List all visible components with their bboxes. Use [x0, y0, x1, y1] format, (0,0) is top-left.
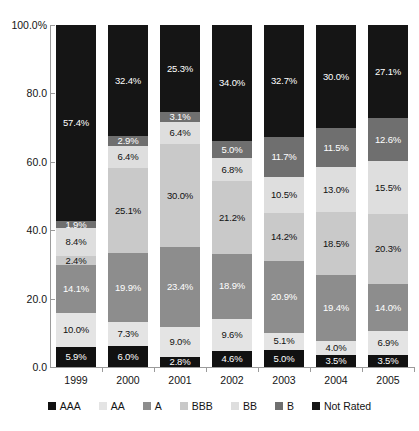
bar-segment: 23.4% — [160, 247, 200, 327]
x-axis-tick-label: 2004 — [308, 374, 364, 386]
bar-segment: 20.9% — [264, 261, 304, 332]
bar-segment: 19.4% — [316, 275, 356, 341]
bar-segment: 20.3% — [368, 214, 408, 283]
x-axis-tick-label: 2005 — [360, 374, 416, 386]
legend-item[interactable]: Not Rated — [312, 400, 371, 412]
bar-segment: 5.0% — [212, 141, 252, 158]
bar-segment: 3.1% — [160, 112, 200, 123]
bar-segment: 8.4% — [56, 228, 96, 257]
bar-segment-value-label: 13.0% — [323, 185, 349, 195]
legend-swatch-icon — [99, 402, 107, 410]
bar-segment-value-label: 2.9% — [118, 136, 139, 146]
bar-segment: 6.4% — [108, 146, 148, 168]
bar-segment: 3.5% — [368, 355, 408, 367]
legend-label: BB — [243, 400, 257, 412]
bar-segment-value-label: 7.3% — [118, 329, 139, 339]
stacked-bar-chart: 0.020.040.060.080.0100.0% AAAAAABBBBBBNo… — [0, 0, 419, 431]
bar-segment: 25.3% — [160, 25, 200, 112]
legend-item[interactable]: BBB — [180, 400, 213, 412]
bar-segment-value-label: 19.4% — [323, 303, 349, 313]
bar-segment-value-label: 23.4% — [167, 282, 193, 292]
bar-segment: 9.6% — [212, 319, 252, 352]
bar-segment: 14.1% — [56, 265, 96, 313]
bar-segment: 57.4% — [56, 25, 96, 221]
bar-segment-value-label: 21.2% — [219, 213, 245, 223]
y-axis-tick-mark — [50, 230, 55, 231]
bar-column: 5.9%10.0%14.1%2.4%8.4%1.9%57.4% — [56, 25, 96, 367]
bar-segment: 7.3% — [108, 322, 148, 347]
legend-item[interactable]: B — [275, 400, 294, 412]
bar-segment: 30.0% — [160, 144, 200, 247]
x-axis-line — [50, 367, 414, 368]
x-axis-tick-label: 1999 — [48, 374, 104, 386]
bar-segment-value-label: 18.9% — [219, 281, 245, 291]
y-axis-tick-label: 20.0 — [27, 293, 47, 305]
bar-segment: 34.0% — [212, 25, 252, 141]
bar-segment-value-label: 10.5% — [271, 190, 297, 200]
bar-segment-value-label: 30.0% — [167, 191, 193, 201]
legend-item[interactable]: A — [143, 400, 162, 412]
bar-segment-value-label: 5.1% — [274, 336, 295, 346]
y-axis-tick-mark — [50, 25, 55, 26]
y-axis-tick-label: 100.0% — [11, 19, 47, 31]
legend-label: Not Rated — [324, 400, 371, 412]
bar-segment: 32.7% — [264, 25, 304, 137]
bar-segment-value-label: 14.1% — [63, 284, 89, 294]
bar-segment: 14.0% — [368, 284, 408, 332]
bar-segment-value-label: 4.0% — [326, 343, 347, 353]
bar-segment: 6.4% — [160, 122, 200, 144]
bar-column: 4.6%9.6%18.9%21.2%6.8%5.0%34.0% — [212, 25, 252, 367]
bar-segment-value-label: 18.5% — [323, 239, 349, 249]
y-axis-tick-mark — [50, 367, 55, 368]
bar-segment-value-label: 27.1% — [375, 67, 401, 77]
bar-segment-value-label: 19.9% — [115, 283, 141, 293]
legend-item[interactable]: BB — [231, 400, 257, 412]
chart-legend: AAAAAABBBBBBNot Rated — [0, 400, 419, 412]
bar-segment: 2.4% — [56, 256, 96, 264]
bar-segment: 10.0% — [56, 313, 96, 347]
bar-segment-value-label: 6.8% — [222, 165, 243, 175]
legend-swatch-icon — [48, 402, 56, 410]
bar-segment-value-label: 57.4% — [63, 118, 89, 128]
bar-segment: 11.5% — [316, 128, 356, 167]
bar-segment-value-label: 6.4% — [170, 128, 191, 138]
bar-segment: 5.9% — [56, 347, 96, 367]
y-axis-tick-mark — [50, 93, 55, 94]
bar-segment: 18.5% — [316, 212, 356, 275]
bar-segment-value-label: 10.0% — [63, 325, 89, 335]
bar-segment: 21.2% — [212, 181, 252, 253]
bar-segment-value-label: 8.4% — [66, 237, 87, 247]
bar-segment-value-label: 20.9% — [271, 292, 297, 302]
bar-segment: 11.7% — [264, 137, 304, 177]
bar-segment-value-label: 3.5% — [378, 356, 399, 366]
bar-segment: 5.0% — [264, 350, 304, 367]
x-axis-tick-mark — [154, 367, 155, 372]
bar-segment-value-label: 9.0% — [170, 337, 191, 347]
bar-segment: 19.9% — [108, 253, 148, 321]
bar-segment-value-label: 32.4% — [115, 76, 141, 86]
y-axis-tick-labels: 0.020.040.060.080.0100.0% — [0, 0, 47, 431]
y-axis-tick-label: 40.0 — [27, 224, 47, 236]
legend-label: AA — [111, 400, 125, 412]
bar-segment-value-label: 12.6% — [375, 135, 401, 145]
bar-segment-value-label: 6.4% — [118, 152, 139, 162]
x-axis-tick-mark — [102, 367, 103, 372]
bar-segment-value-label: 11.5% — [323, 143, 348, 153]
legend-label: AAA — [60, 400, 81, 412]
bar-segment-value-label: 20.3% — [375, 244, 401, 254]
y-axis-tick-mark — [50, 162, 55, 163]
legend-item[interactable]: AAA — [48, 400, 81, 412]
bar-segment-value-label: 14.2% — [271, 232, 297, 242]
y-axis-tick-label: 80.0 — [27, 87, 47, 99]
bar-segment-value-label: 9.6% — [222, 330, 243, 340]
legend-label: B — [287, 400, 294, 412]
y-axis-tick-label: 60.0 — [27, 156, 47, 168]
bar-column: 2.8%9.0%23.4%30.0%6.4%3.1%25.3% — [160, 25, 200, 367]
bar-segment-value-label: 6.0% — [118, 352, 139, 362]
legend-item[interactable]: AA — [99, 400, 125, 412]
legend-label: A — [155, 400, 162, 412]
x-axis-tick-mark — [206, 367, 207, 372]
legend-swatch-icon — [180, 402, 188, 410]
bar-segment: 15.5% — [368, 161, 408, 214]
bar-segment: 6.0% — [108, 346, 148, 367]
